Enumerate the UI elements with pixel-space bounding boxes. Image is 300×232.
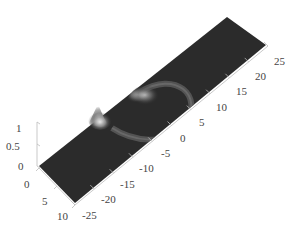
y-tick-20: 20 [255,70,267,82]
z-tick-0: 0 [18,160,24,172]
y-tick-5: 5 [199,116,205,128]
y-tick--15: -15 [120,178,135,190]
x-tick-0: 0 [24,178,30,190]
y-tick-25: 25 [274,55,286,67]
x-tick-10: 10 [57,210,69,222]
z-tick-1: 1 [16,122,22,134]
x-tick-5: 5 [42,195,48,207]
surface-plot: 1 0.5 0 0 5 10 -25 -20 -15 -10 -5 0 5 10… [0,0,300,232]
surface-base [39,17,266,203]
z-tick-0.5: 0.5 [6,140,20,152]
y-tick-10: 10 [216,101,228,113]
y-tick-0: 0 [180,132,186,144]
y-tick--25: -25 [82,209,97,221]
y-tick--5: -5 [161,147,171,159]
y-tick-15: 15 [236,85,248,97]
y-tick--20: -20 [101,193,116,205]
z-axis: 1 0.5 0 [6,122,40,172]
y-tick--10: -10 [139,162,154,174]
